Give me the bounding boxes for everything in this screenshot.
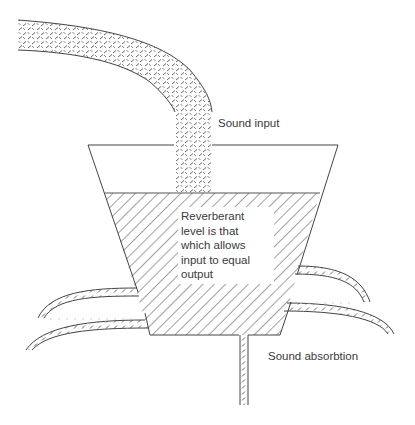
absorption-pipe-left-upper [38, 288, 139, 318]
reverberant-line-4: input to equal [181, 253, 271, 268]
sound-absorption-label: Sound absorbtion [268, 349, 358, 363]
sound-input-label: Sound input [218, 116, 279, 130]
absorption-pipe-left-lower [26, 320, 148, 350]
sound-input-pipe [18, 20, 212, 193]
reverberant-line-1: Reverberant [181, 209, 271, 224]
reverberant-line-3: which allows [181, 238, 271, 253]
absorption-pipe-right-upper [295, 266, 370, 302]
reverberant-line-2: level is that [181, 224, 271, 239]
reverberant-level-label: Reverberant level is that which allows i… [178, 207, 274, 284]
drain-pipe [240, 335, 248, 405]
absorption-pipe-right-lower [284, 303, 394, 334]
reverberant-line-5: output [181, 267, 271, 282]
